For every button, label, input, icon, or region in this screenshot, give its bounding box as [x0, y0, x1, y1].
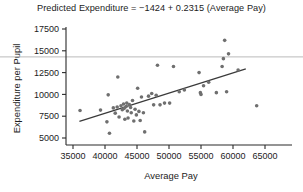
- y-tick-label: 7500: [39, 111, 59, 121]
- data-point: [225, 90, 229, 94]
- data-point: [132, 119, 136, 123]
- data-point: [140, 95, 144, 99]
- data-point: [150, 92, 154, 96]
- data-point: [142, 111, 146, 115]
- x-tick-label: 35000: [60, 151, 85, 161]
- data-point: [116, 75, 120, 79]
- y-tick-label: 10000: [34, 90, 59, 100]
- data-point: [113, 111, 117, 115]
- data-point: [123, 117, 127, 121]
- y-tick-label: 12500: [34, 68, 59, 78]
- data-point: [126, 116, 130, 120]
- regression-line: [79, 69, 245, 121]
- data-point: [126, 109, 130, 113]
- x-tick-label: 40000: [92, 151, 117, 161]
- data-point: [135, 113, 139, 117]
- data-point: [152, 103, 156, 107]
- data-point: [255, 104, 259, 108]
- data-point: [168, 101, 172, 105]
- y-tick-label: 5000: [39, 133, 59, 143]
- data-point: [138, 119, 142, 123]
- data-point: [108, 131, 112, 135]
- data-point: [172, 65, 176, 69]
- data-point: [122, 102, 126, 106]
- data-point: [112, 106, 116, 110]
- data-point: [147, 94, 151, 98]
- data-point: [223, 39, 227, 43]
- y-tick-label: 15000: [34, 46, 59, 56]
- data-point: [115, 105, 119, 109]
- data-point: [158, 103, 162, 107]
- data-point: [177, 90, 181, 94]
- data-point: [117, 115, 121, 119]
- data-point: [197, 71, 201, 75]
- data-point: [220, 65, 224, 69]
- data-point: [163, 101, 167, 105]
- data-point: [202, 84, 206, 88]
- data-point: [137, 110, 141, 114]
- data-point: [129, 111, 133, 115]
- data-point: [143, 130, 147, 134]
- data-point: [124, 105, 128, 109]
- data-point: [236, 68, 240, 72]
- scatter-plot-area: 5000750010000125001500017500350004000045…: [0, 0, 303, 192]
- data-point: [207, 80, 211, 84]
- x-tick-label: 45000: [124, 151, 149, 161]
- data-point: [131, 99, 135, 103]
- data-point: [183, 88, 187, 92]
- data-point: [78, 109, 82, 113]
- x-tick-label: 65000: [252, 151, 277, 161]
- x-tick-label: 55000: [188, 151, 213, 161]
- data-point: [215, 91, 219, 95]
- data-point: [106, 93, 110, 97]
- data-point: [136, 86, 140, 90]
- data-point: [199, 93, 203, 97]
- data-point: [156, 63, 160, 67]
- data-point: [133, 107, 137, 111]
- data-point: [129, 106, 133, 110]
- x-tick-label: 50000: [156, 151, 181, 161]
- y-tick-label: 17500: [34, 24, 59, 34]
- data-point: [105, 120, 109, 124]
- data-point: [222, 57, 226, 61]
- data-point: [227, 52, 231, 56]
- data-point: [154, 93, 158, 97]
- x-tick-label: 60000: [220, 151, 245, 161]
- data-point: [99, 108, 103, 112]
- chart-figure: Predicted Expenditure = −1424 + 0.2315 (…: [0, 0, 303, 192]
